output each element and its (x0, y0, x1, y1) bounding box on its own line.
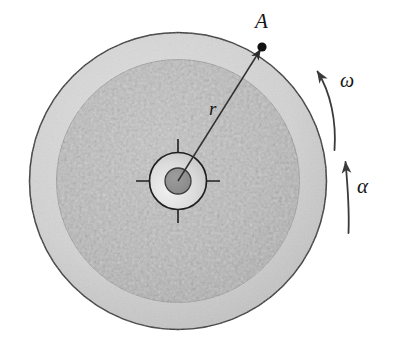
radius-label: r (209, 99, 216, 118)
point-a-label: A (255, 11, 268, 32)
point-a-marker (257, 42, 266, 51)
disk-diagram-svg (0, 0, 402, 354)
angular-acceleration-label: α (357, 176, 368, 197)
figure-canvas: A r ω α (0, 0, 402, 354)
angular-acceleration-arrow (346, 162, 349, 233)
angular-velocity-label: ω (340, 70, 354, 90)
